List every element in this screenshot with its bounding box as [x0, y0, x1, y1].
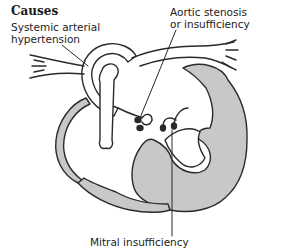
leader-aortic: [140, 30, 176, 118]
pulmonary-trunk: [99, 64, 118, 149]
heart-illustration: [0, 0, 290, 251]
right-atrium: [56, 98, 90, 183]
valve-leaflets: [135, 118, 177, 132]
